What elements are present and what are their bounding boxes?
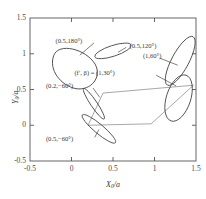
leader-0.5-neg60 <box>95 130 99 138</box>
annotation-label: (0.5,−60°) <box>46 136 73 143</box>
y-axis-title: Y0/a <box>12 90 21 103</box>
y-tick-label: 0 <box>22 121 26 129</box>
annotation-label: (f′, β) = (1,30°) <box>74 70 114 77</box>
x-tick-label: -0.5 <box>24 165 36 173</box>
y-tick-label: 1 <box>22 50 26 58</box>
y-tick-label: 1.5 <box>17 14 26 22</box>
x-tick-label: 0 <box>70 165 74 173</box>
ellipse-0.5-neg60 <box>79 111 118 146</box>
leader-1-60 <box>159 58 177 65</box>
chart-figure: (0.5,180°)(0.5,120°)(1,60°)(f′, β) = (1,… <box>0 0 206 199</box>
x-tick-label: 0.5 <box>108 165 117 173</box>
x-axis-title: X0/a <box>106 181 120 190</box>
annotation-label: (0.5,120°) <box>130 43 157 50</box>
leader-0.5-180 <box>80 43 94 55</box>
x-tick-label: 1.5 <box>191 165 200 173</box>
leader-0.2-neg60 <box>93 88 100 97</box>
annotation-label: (0.2,−60°) <box>46 83 73 90</box>
ellipse-0.5-120 <box>93 40 133 62</box>
annotation-label: (0.5,180°) <box>55 38 82 45</box>
annotation-label: (1,60°) <box>143 53 162 60</box>
ellipse-0.2-neg60 <box>81 87 107 121</box>
x-tick-label: 1 <box>153 165 157 173</box>
y-tick-label: -0.5 <box>14 157 26 165</box>
annotation-leader-lines <box>80 43 178 137</box>
